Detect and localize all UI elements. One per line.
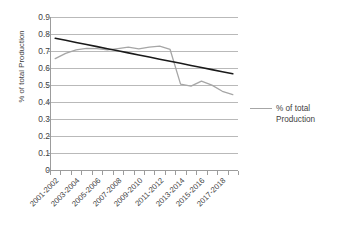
x-axis-tick	[196, 171, 197, 175]
x-axis-tick	[144, 171, 145, 175]
trendline-path	[55, 38, 233, 74]
x-axis-tick	[238, 171, 239, 175]
x-axis-tick	[175, 171, 176, 175]
y-axis-title: % of total Production	[17, 0, 26, 135]
x-axis-tick	[60, 171, 61, 175]
x-axis-tick	[102, 171, 103, 175]
x-axis-tick	[186, 171, 187, 175]
x-axis-tick	[154, 171, 155, 175]
legend-label-line1: % of total	[276, 103, 315, 114]
x-axis-tick	[217, 171, 218, 175]
legend-item: % of totalProduction	[250, 103, 315, 125]
y-axis-tick	[47, 170, 50, 171]
data-series-path	[55, 46, 233, 95]
x-axis-tick	[113, 171, 114, 175]
x-axis-tick	[81, 171, 82, 175]
chart-container: % of total Production 00.10.20.30.40.50.…	[0, 0, 344, 227]
chart-legend: % of totalProduction	[250, 103, 315, 125]
series-lines	[50, 17, 238, 170]
x-axis-tick	[165, 171, 166, 175]
legend-label-line2: Production	[276, 114, 315, 125]
x-axis-tick	[71, 171, 72, 175]
x-axis-tick	[228, 171, 229, 175]
x-axis-tick	[134, 171, 135, 175]
legend-label: % of totalProduction	[276, 103, 315, 125]
legend-line-icon	[250, 108, 272, 109]
x-axis-tick	[123, 171, 124, 175]
x-axis-tick	[207, 171, 208, 175]
plot-area	[50, 17, 238, 170]
x-axis-tick	[50, 171, 51, 175]
x-axis-tick	[92, 171, 93, 175]
